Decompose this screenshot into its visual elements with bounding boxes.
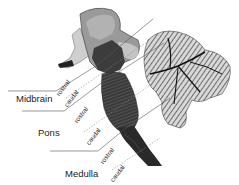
region-label-medulla: Medulla xyxy=(65,168,98,179)
region-label-midbrain: Midbrain xyxy=(16,93,52,104)
brainstem-diagram: Midbrain Pons Medulla rostral caudal ros… xyxy=(0,0,239,185)
cerebellum xyxy=(144,31,230,128)
region-label-pons: Pons xyxy=(38,127,60,138)
